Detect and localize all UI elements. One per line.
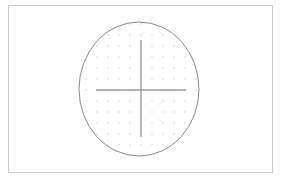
grid-dot [151,56,153,58]
grid-dot [118,122,120,124]
grid-dot [195,78,197,80]
grid-dot [151,67,153,69]
grid-dot [173,78,175,80]
grid-dot [107,122,109,124]
grid-dot [96,133,98,135]
grid-dot [140,144,142,146]
grid-dot [129,56,131,58]
grid-dot [151,45,153,47]
grid-dot [184,56,186,58]
grid-dot [118,45,120,47]
grid-dot [162,67,164,69]
grid-dot [162,144,164,146]
grid-dot [107,78,109,80]
grid-dot [162,111,164,113]
grid-dot [184,78,186,80]
grid-dot [129,23,131,25]
grid-dot [173,45,175,47]
grid-dot [151,100,153,102]
grid-dot [162,122,164,124]
grid-dot [118,78,120,80]
grid-dot [173,133,175,135]
grid-dot [118,100,120,102]
grid-dot [96,56,98,58]
grid-dot [85,78,87,80]
grid-dot [107,56,109,58]
grid-dot [184,100,186,102]
grid-dot [129,144,131,146]
grid-dot [118,133,120,135]
grid-dot [173,100,175,102]
grid-dot [129,133,131,135]
grid-dot [151,111,153,113]
grid-dot [173,56,175,58]
grid-dot [173,122,175,124]
grid-dot [129,67,131,69]
grid-dot [140,23,142,25]
grid-dot [151,144,153,146]
grid-dot [96,122,98,124]
grid-dot [96,100,98,102]
grid-dot [118,34,120,36]
grid-dot [129,78,131,80]
grid-dot [96,45,98,47]
grid-dot [118,111,120,113]
grid-dot [184,111,186,113]
figure-canvas [0,0,282,180]
grid-dot [162,56,164,58]
grid-dot [118,56,120,58]
grid-dot [118,67,120,69]
grid-dot [184,67,186,69]
grid-dot [129,100,131,102]
grid-dot [85,100,87,102]
grid-dot [140,34,142,36]
grid-dot [151,34,153,36]
grid-dot [85,111,87,113]
grid-dot [96,78,98,80]
grid-dot [195,100,197,102]
grid-dot [107,34,109,36]
grid-dot [85,67,87,69]
grid-dot [184,122,186,124]
grid-dot [151,78,153,80]
grid-dot [151,133,153,135]
grid-dot [129,45,131,47]
grid-dot [107,67,109,69]
grid-dot [151,122,153,124]
grid-dot [107,100,109,102]
grid-dot [96,67,98,69]
grid-dot [162,45,164,47]
grid-dot [129,34,131,36]
grid-dot [195,89,197,91]
grid-dot [162,100,164,102]
grid-dot [96,111,98,113]
grid-dot [85,89,87,91]
grid-dot [129,122,131,124]
grid-dot [162,34,164,36]
grid-dot [173,111,175,113]
grid-dot [129,111,131,113]
grid-dot [162,78,164,80]
grid-dot [107,133,109,135]
grid-dot [107,45,109,47]
grid-dot [162,133,164,135]
grid-dot [118,144,120,146]
figure-container [0,0,282,180]
grid-dot [107,111,109,113]
grid-dot [173,67,175,69]
